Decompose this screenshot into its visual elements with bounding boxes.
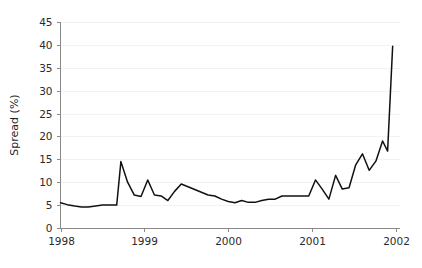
y-tick-label: 5	[46, 199, 53, 211]
x-tick-label: 1999	[131, 235, 158, 247]
y-tick-label: 45	[39, 16, 52, 28]
chart-canvas: 051015202530354045 19981999200020012002 …	[0, 0, 422, 268]
spread-line-chart: 051015202530354045 19981999200020012002 …	[0, 0, 422, 268]
y-tick-label: 20	[39, 130, 52, 142]
gridlines	[61, 23, 401, 206]
x-axis: 19981999200020012002	[48, 228, 410, 247]
y-tick-label: 0	[46, 222, 53, 234]
x-tick-label: 1998	[48, 235, 75, 247]
y-axis: 051015202530354045	[39, 16, 60, 234]
y-tick-label: 35	[39, 62, 52, 74]
y-tick-label: 10	[39, 176, 52, 188]
y-axis-title: Spread (%)	[8, 94, 21, 155]
x-tick-label: 2002	[383, 235, 410, 247]
y-tick-label: 30	[39, 85, 52, 97]
y-tick-label: 40	[39, 39, 52, 51]
y-tick-label: 25	[39, 108, 52, 120]
x-tick-label: 2001	[299, 235, 326, 247]
y-tick-label: 15	[39, 153, 52, 165]
x-tick-label: 2000	[215, 235, 242, 247]
